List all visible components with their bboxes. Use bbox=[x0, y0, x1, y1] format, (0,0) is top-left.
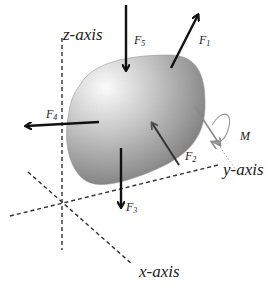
z-axis-label: z-axis bbox=[63, 26, 103, 43]
x-axis-label: x-axis bbox=[139, 263, 180, 280]
force-f1-label: F1 bbox=[199, 34, 210, 48]
y-axis-label: y-axis bbox=[223, 161, 264, 178]
force-f2-label: F2 bbox=[185, 150, 196, 164]
x-axis-line bbox=[28, 172, 132, 264]
free-body-diagram: z-axis y-axis x-axis F5 F1 F4 F2 F3 M bbox=[0, 0, 271, 290]
force-f3-label: F3 bbox=[126, 201, 137, 215]
force-f5-label: F5 bbox=[134, 34, 145, 48]
moment-label: M bbox=[240, 130, 250, 142]
rigid-body bbox=[67, 55, 206, 185]
force-f4-label: F4 bbox=[46, 108, 57, 122]
